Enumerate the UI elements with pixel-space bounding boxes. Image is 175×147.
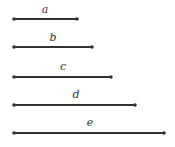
segment-e — [12, 131, 166, 135]
label-d: d — [72, 89, 79, 100]
segment-c — [12, 75, 113, 79]
label-c: c — [60, 61, 66, 72]
label-a: a — [42, 4, 49, 15]
segment-b — [12, 45, 94, 49]
segment-a — [12, 17, 79, 21]
segment-d — [12, 103, 137, 107]
label-e: e — [87, 117, 94, 128]
label-b: b — [49, 32, 56, 43]
